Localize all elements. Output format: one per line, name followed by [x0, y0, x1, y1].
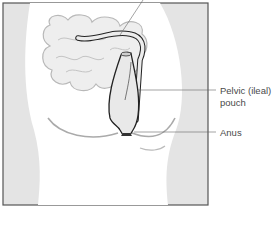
label-anus: Anus — [220, 127, 242, 138]
label-pelvic-pouch-line2: pouch — [220, 97, 246, 108]
label-pelvic-pouch-line1: Pelvic (ileal) — [220, 85, 271, 96]
